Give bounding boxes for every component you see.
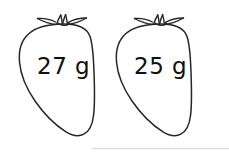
strawberry-right-calyx-icon (135, 15, 184, 26)
strawberry-right-weight-label: 25 g (134, 55, 187, 78)
strawberry-left-body (19, 24, 94, 136)
strawberry-left-calyx-icon (38, 15, 87, 26)
strawberries-drawing (0, 0, 229, 153)
illustration-canvas: 27 g 25 g (0, 0, 229, 153)
strawberry-right-body (116, 24, 191, 136)
strawberry-left-weight-label: 27 g (37, 55, 90, 78)
